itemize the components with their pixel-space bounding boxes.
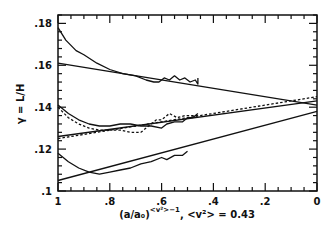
x-tick-label: 1 — [55, 196, 62, 207]
x-tick-label: .8 — [104, 196, 115, 207]
y-tick-label: .18 — [34, 18, 52, 29]
x-tick-label: .2 — [260, 196, 271, 207]
axis-ticks — [58, 15, 317, 191]
x-tick-labels: 1.8.6.4.20 — [55, 196, 321, 207]
series-upper-data — [58, 28, 198, 85]
y-tick-labels: .1.12.14.16.18 — [34, 18, 52, 197]
x-tick-label: 0 — [314, 196, 321, 207]
plot-frame — [58, 15, 317, 191]
series-upper-fit — [58, 63, 317, 105]
x-axis-label-exponent: <v²>−1 — [150, 206, 180, 214]
chart: .1.12.14.16.18 1.8.6.4.20 γ = L/H (a/a₀)… — [0, 0, 334, 234]
series-lower-fit — [58, 111, 317, 180]
y-tick-label: .16 — [34, 60, 52, 71]
x-tick-label: .4 — [208, 196, 219, 207]
series-middle-fit-dotted — [58, 97, 317, 139]
x-axis-label-base: (a/a₀) — [119, 209, 150, 220]
data-series — [58, 28, 317, 181]
x-axis-label: (a/a₀)<v²>−1, <v²> = 0.43 — [119, 206, 255, 220]
y-tick-label: .12 — [34, 144, 52, 155]
y-tick-label: .14 — [34, 102, 52, 113]
y-tick-label: .1 — [41, 186, 52, 197]
series-middle-fit — [58, 101, 317, 137]
x-axis-label-suffix: , <v²> = 0.43 — [180, 209, 255, 220]
y-axis-label: γ = L/H — [15, 84, 26, 125]
